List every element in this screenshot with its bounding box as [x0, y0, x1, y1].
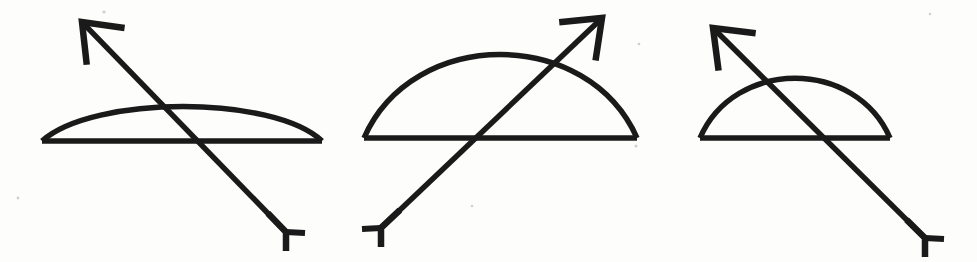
figure-sheet — [0, 0, 977, 262]
figure-3-arrow-nock-barb — [925, 238, 944, 239]
figure-2-bow-arc — [364, 55, 637, 138]
figure-2 — [362, 18, 637, 247]
figure-2-arrow-nock — [381, 210, 400, 247]
figure-1-arrow-nock-barb — [286, 232, 305, 233]
figure-3-arrow-nock — [907, 220, 925, 257]
figure-1-arrow-nock — [268, 213, 286, 251]
figure-1-arrow-shaft — [85, 26, 288, 235]
paper-speck — [638, 43, 641, 46]
paper-speck — [17, 197, 20, 200]
figure-3 — [700, 28, 944, 257]
figure-2-arrow-nock-barb — [362, 228, 381, 229]
paper-speck — [471, 205, 474, 208]
bow-and-arrow-diagram-canvas — [0, 0, 977, 262]
paper-speck — [929, 13, 932, 16]
paper-speck — [635, 145, 638, 148]
paper-speck — [102, 10, 105, 13]
figure-1 — [42, 22, 322, 251]
